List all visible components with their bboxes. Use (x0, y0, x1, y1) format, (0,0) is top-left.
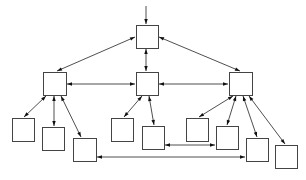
node-root (137, 26, 159, 49)
node-leaf-h (247, 139, 269, 162)
node-leaf-a (13, 119, 35, 142)
edge-mid-center-to-leaf-e (149, 96, 154, 125)
edge-mid-left-to-leaf-a (24, 96, 46, 117)
node-mid-center (137, 73, 159, 96)
edge-mid-center-to-leaf-d (124, 96, 142, 117)
node-leaf-e (143, 127, 165, 150)
edge-mid-right-to-leaf-h (243, 96, 257, 137)
node-leaf-d (112, 119, 134, 142)
edge-mid-right-to-leaf-i (249, 96, 285, 144)
hierarchy-diagram (0, 0, 306, 180)
node-mid-right (230, 73, 253, 96)
edge-root-to-mid-left (57, 37, 135, 71)
edge-mid-right-to-leaf-g (227, 96, 236, 125)
node-leaf-g (217, 127, 239, 150)
node-leaf-f (187, 119, 209, 142)
edge-mid-right-to-leaf-f (199, 96, 233, 117)
node-leaf-i (276, 146, 298, 169)
node-mid-left (44, 73, 67, 96)
node-leaf-b (43, 128, 65, 151)
edge-root-to-mid-right (159, 37, 240, 71)
nodes-layer (13, 26, 298, 169)
node-leaf-c (74, 139, 97, 162)
